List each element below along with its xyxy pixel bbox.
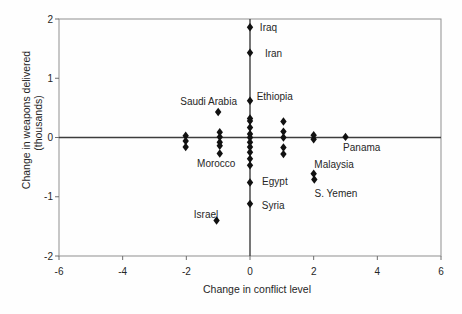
y-axis-tick-label: 0 [47, 132, 53, 143]
data-point-marker [280, 133, 286, 141]
data-point-marker-panama [342, 133, 348, 141]
y-axis-tick-label: 1 [47, 73, 53, 84]
country-label: Israel [194, 209, 218, 220]
y-axis-tick-label: -1 [44, 191, 53, 202]
y-axis-title-units: (thousands) [32, 95, 44, 150]
x-axis-tick-label: -2 [182, 266, 191, 277]
y-axis-title: Change in weapons delivered [20, 51, 32, 190]
data-point-marker-s-yemen [311, 175, 317, 183]
x-axis-tick-label: -4 [118, 266, 127, 277]
country-label: Egypt [262, 176, 288, 187]
data-point-marker-iran [247, 49, 253, 57]
data-point-marker [280, 117, 286, 125]
scatter-plot-figure: -6-4-20246210-1-2Change in conflict leve… [0, 0, 462, 314]
data-point-marker [247, 161, 253, 169]
country-label: Saudi Arabia [180, 96, 237, 107]
data-point-marker [182, 143, 188, 151]
x-axis-tick-label: -6 [55, 266, 64, 277]
data-point-marker-egypt [247, 178, 253, 186]
x-axis-tick-label: 2 [311, 266, 317, 277]
country-label: Panama [343, 142, 381, 153]
country-label: Malaysia [314, 159, 354, 170]
x-axis-tick-label: 4 [375, 266, 381, 277]
data-point-marker-ethiopia [247, 97, 253, 105]
country-label: Morocco [197, 158, 236, 169]
data-point-marker-morocco [217, 149, 223, 157]
data-point-marker-saudi-arabia [215, 108, 221, 116]
country-label: Syria [262, 200, 285, 211]
y-axis-tick-label: -2 [44, 251, 53, 262]
country-label: S. Yemen [315, 188, 358, 199]
x-axis-title: Change in conflict level [203, 283, 311, 295]
x-axis-tick-label: 0 [247, 266, 253, 277]
data-point-marker-iraq [247, 23, 253, 31]
weapons-conflict-scatter-chart: -6-4-20246210-1-2Change in conflict leve… [0, 0, 462, 314]
data-point-marker-syria [247, 200, 253, 208]
data-point-marker [280, 150, 286, 158]
country-label: Iran [265, 48, 282, 59]
y-axis-tick-label: 2 [47, 14, 53, 25]
country-label: Ethiopia [257, 91, 294, 102]
country-label: Iraq [260, 22, 277, 33]
x-axis-tick-label: 6 [438, 266, 444, 277]
